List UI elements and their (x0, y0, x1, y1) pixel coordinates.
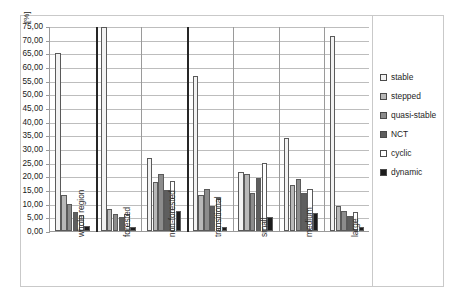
y-axis-tick (46, 41, 50, 42)
legend-item[interactable]: quasi-stable (380, 110, 444, 129)
bar (67, 204, 72, 231)
legend-swatch-icon (380, 150, 387, 157)
legend-item-label: dynamic (391, 167, 422, 177)
bar (61, 195, 66, 231)
y-axis-tick-label: 10,00 (0, 201, 43, 209)
bar (55, 53, 60, 231)
category-separator (96, 27, 98, 232)
bar-chart-figure: [%] 75,0070,0065,0060,0055,0050,0045,004… (0, 0, 460, 306)
y-axis-tick (46, 191, 50, 192)
y-axis-tick-label: 75,00 (0, 23, 43, 31)
bar (330, 36, 335, 231)
category-separator (187, 27, 189, 232)
y-axis-tick (46, 54, 50, 55)
y-axis-tick (46, 95, 50, 96)
y-axis-tick-label: 15,00 (0, 187, 43, 195)
legend-swatch-icon (380, 131, 387, 138)
legend-swatch-icon (380, 74, 387, 81)
y-axis-tick (46, 205, 50, 206)
legend-item-label: stepped (391, 91, 421, 101)
y-axis-tick (46, 150, 50, 151)
x-axis-tick-label: transitional (213, 196, 223, 237)
bar (290, 185, 295, 231)
gridline (50, 109, 369, 110)
legend-item[interactable]: dynamic (380, 167, 444, 186)
gridline (50, 150, 369, 151)
bar (113, 214, 118, 231)
bar (147, 158, 152, 231)
bar (101, 27, 106, 231)
bar (158, 174, 163, 231)
gridline (50, 54, 369, 55)
legend-swatch-icon (380, 112, 387, 119)
category-separator (324, 27, 325, 232)
bar (336, 206, 341, 231)
category-separator (233, 27, 234, 232)
bar (153, 182, 158, 231)
y-axis-tick (46, 82, 50, 83)
y-axis-tick-label: 55,00 (0, 78, 43, 86)
y-axis-tick-label: 30,00 (0, 146, 43, 154)
x-axis-tick-label: forested (122, 207, 132, 237)
y-axis-tick-label: 5,00 (0, 214, 43, 222)
bar (244, 174, 249, 231)
y-axis-tick-label: 0,00 (0, 228, 43, 236)
gridline (50, 82, 369, 83)
legend-item[interactable]: stable (380, 72, 444, 91)
bar (107, 209, 112, 231)
category-separator (279, 27, 280, 232)
y-axis-tick (46, 123, 50, 124)
x-axis-tick-label: large (350, 218, 360, 237)
legend-item-label: quasi-stable (391, 110, 436, 120)
legend-item[interactable]: stepped (380, 91, 444, 110)
legend-swatch-icon (380, 93, 387, 100)
y-axis-tick-label: 40,00 (0, 119, 43, 127)
bar (296, 179, 301, 231)
x-axis-tick-label: small (259, 217, 269, 237)
y-axis-tick (46, 27, 50, 28)
legend-swatch-icon (380, 169, 387, 176)
bar (284, 138, 289, 231)
gridline (50, 68, 369, 69)
legend-item-label: stable (391, 72, 413, 82)
y-axis-tick-label: 25,00 (0, 160, 43, 168)
y-axis-tick (46, 218, 50, 219)
gridline (50, 177, 369, 178)
y-axis-tick-label: 50,00 (0, 91, 43, 99)
plot-area (49, 27, 369, 232)
bar (341, 211, 346, 232)
gridline (50, 123, 369, 124)
legend-item[interactable]: cyclic (380, 148, 444, 167)
bar (238, 172, 243, 231)
legend-item-label: cyclic (391, 148, 411, 158)
y-axis-tick-label: 35,00 (0, 132, 43, 140)
legend-divider (372, 16, 373, 286)
gridline (50, 164, 369, 165)
y-axis-tick (46, 68, 50, 69)
x-axis-tick-label: non-forested (167, 190, 177, 237)
y-axis-tick (46, 109, 50, 110)
bar (204, 189, 209, 231)
bar (193, 76, 198, 231)
y-axis-tick-label: 20,00 (0, 173, 43, 181)
y-axis-tick-label: 45,00 (0, 105, 43, 113)
y-axis-tick (46, 164, 50, 165)
bar (250, 193, 255, 231)
gridline (50, 136, 369, 137)
y-axis-tick-label: 70,00 (0, 37, 43, 45)
legend-item-label: NCT (391, 129, 408, 139)
legend-item[interactable]: NCT (380, 129, 444, 148)
bar (198, 195, 203, 231)
y-axis-tick (46, 232, 50, 233)
category-separator (141, 27, 142, 232)
gridline (50, 27, 369, 28)
y-axis-tick-label: 65,00 (0, 50, 43, 58)
chart-legend: stablesteppedquasi-stableNCTcyclicdynami… (380, 72, 444, 186)
x-axis-tick-label: medium (304, 207, 314, 237)
gridline (50, 95, 369, 96)
y-axis-tick (46, 177, 50, 178)
y-axis-tick-label: 60,00 (0, 64, 43, 72)
gridline (50, 41, 369, 42)
y-axis-tick (46, 136, 50, 137)
x-axis-tick-label: whole region (76, 190, 86, 238)
